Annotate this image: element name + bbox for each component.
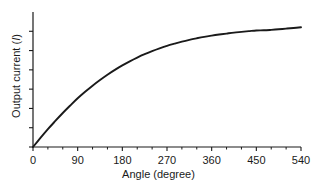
chart-figure: 090180270360450540 Angle (degree) Output… <box>0 0 317 190</box>
x-axis-tick-label: 0 <box>13 154 53 166</box>
y-axis-title-wrapper: Output current (I) <box>10 6 26 146</box>
y-axis-title-text: Output current ( <box>10 41 22 118</box>
x-axis-title: Angle (degree) <box>0 168 317 180</box>
y-axis-title-symbol: I <box>10 38 22 41</box>
x-axis-tick-label: 90 <box>58 154 98 166</box>
x-axis-tick-label: 180 <box>102 154 142 166</box>
axis-lines <box>33 12 301 147</box>
x-axis-tick-label: 360 <box>192 154 232 166</box>
data-series-line <box>33 27 301 147</box>
x-axis-tick-label: 540 <box>281 154 317 166</box>
y-axis-title-tail: ) <box>10 34 22 38</box>
x-axis-tick-label: 450 <box>236 154 276 166</box>
y-axis-title: Output current (I) <box>10 6 22 146</box>
x-axis-major-ticks <box>33 147 301 151</box>
x-axis-tick-label: 270 <box>147 154 187 166</box>
